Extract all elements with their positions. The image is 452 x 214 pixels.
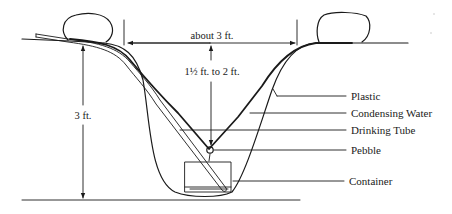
total-depth-label: 3 ft. xyxy=(75,110,92,121)
drinking-tube xyxy=(36,34,227,191)
drip-line xyxy=(209,154,210,161)
callout-drinking-tube: Drinking Tube xyxy=(351,124,416,136)
center-depth-label: 1½ ft. to 2 ft. xyxy=(184,66,239,77)
speck xyxy=(433,13,434,14)
rock-left xyxy=(63,13,112,42)
container xyxy=(185,162,231,192)
total-depth-dimension: 3 ft. xyxy=(75,46,92,198)
rock-right xyxy=(317,12,370,42)
speck xyxy=(430,32,431,33)
solar-still-diagram: about 3 ft. 1½ ft. to 2 ft. 3 ft. Plasti… xyxy=(0,0,452,214)
callout-pebble: Pebble xyxy=(351,144,381,156)
width-label: about 3 ft. xyxy=(191,30,234,41)
width-dimension: about 3 ft. xyxy=(124,20,297,45)
callout-plastic: Plastic xyxy=(351,90,380,102)
callout-condensing-water: Condensing Water xyxy=(351,107,432,119)
callout-container: Container xyxy=(349,175,393,187)
